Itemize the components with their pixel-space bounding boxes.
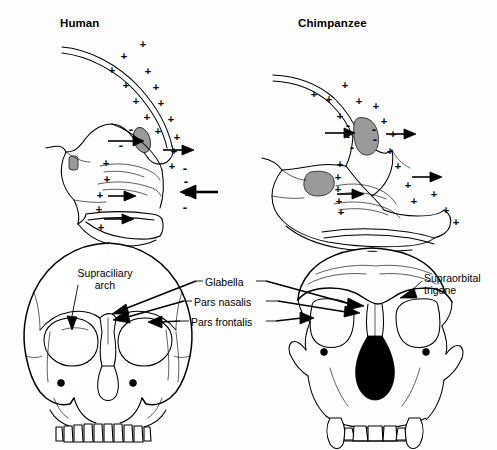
svg-text:-: - — [129, 122, 133, 137]
label-supraorbital-trigone: Supraorbital trigone — [424, 273, 496, 296]
svg-text:+: + — [431, 188, 437, 200]
label-pars-frontalis: Pars frontalis — [191, 317, 252, 329]
label-supraciliary-arch: Supraciliary arch — [70, 268, 140, 291]
svg-text:-: - — [373, 132, 377, 147]
svg-text:+: + — [338, 206, 344, 218]
svg-text:+: + — [133, 95, 139, 107]
svg-text:+: + — [97, 189, 103, 201]
svg-text:+: + — [335, 171, 341, 183]
svg-text:+: + — [381, 115, 387, 127]
label-pars-nasalis: Pars nasalis — [194, 297, 251, 309]
svg-text:+: + — [453, 216, 459, 228]
svg-text:+: + — [405, 179, 411, 191]
human-sagittal-section: + + + + + + + + + + + + + + + + + + + — [46, 38, 218, 246]
svg-text:+: + — [98, 221, 104, 233]
svg-text:+: + — [109, 64, 115, 76]
chimp-tooth-row — [327, 418, 423, 449]
label-supraciliary-arch-line1: Supraciliary — [78, 267, 133, 279]
svg-text:+: + — [395, 160, 401, 172]
svg-text:+: + — [153, 81, 159, 93]
figure-drawing-layer: + + + + + + + + + + + + + + + + + + + — [0, 0, 497, 450]
svg-text:+: + — [373, 100, 379, 112]
svg-text:+: + — [123, 79, 129, 91]
svg-text:+: + — [121, 50, 127, 62]
svg-text:+: + — [174, 131, 180, 143]
svg-text:+: + — [443, 204, 449, 216]
svg-text:+: + — [103, 157, 109, 169]
svg-text:+: + — [144, 111, 150, 123]
chimp-infraorbital-foramen-left — [321, 349, 328, 356]
svg-text:+: + — [168, 113, 174, 125]
svg-text:+: + — [326, 93, 332, 105]
svg-text:-: - — [183, 200, 187, 215]
chimp-infraorbital-foramen-right — [423, 349, 430, 356]
human-infraorbital-foramen-right — [130, 380, 137, 387]
label-supraciliary-arch-line2: arch — [95, 279, 115, 291]
svg-text:+: + — [411, 195, 417, 207]
svg-text:+: + — [387, 145, 393, 157]
svg-text:+: + — [169, 160, 175, 172]
label-supraorbital-trigone-line2: trigone — [424, 284, 456, 296]
svg-text:+: + — [104, 173, 110, 185]
human-tooth-row — [56, 424, 151, 442]
chimp-orbital-shade — [304, 171, 334, 196]
svg-text:+: + — [155, 125, 161, 137]
comparative-craniofacial-figure: Human Chimpanzee — [0, 0, 497, 450]
svg-text:+: + — [311, 88, 317, 100]
svg-text:+: + — [140, 38, 146, 50]
chimp-nasal-aperture — [356, 336, 395, 400]
svg-text:+: + — [145, 65, 151, 77]
svg-text:+: + — [158, 97, 164, 109]
svg-text:-: - — [350, 140, 354, 155]
human-infraorbital-foramen-left — [58, 380, 65, 387]
human-ethmoid-shade — [69, 156, 78, 170]
svg-text:+: + — [96, 203, 102, 215]
label-supraorbital-trigone-line1: Supraorbital — [424, 272, 481, 284]
svg-text:+: + — [337, 158, 343, 170]
svg-text:+: + — [342, 79, 348, 91]
chimpanzee-sagittal-section: + + + + + + + + + + + + + + + + + + + + — [262, 75, 459, 251]
label-glabella: Glabella — [205, 277, 244, 289]
svg-text:+: + — [337, 110, 343, 122]
svg-text:+: + — [171, 145, 177, 157]
svg-text:+: + — [356, 95, 362, 107]
